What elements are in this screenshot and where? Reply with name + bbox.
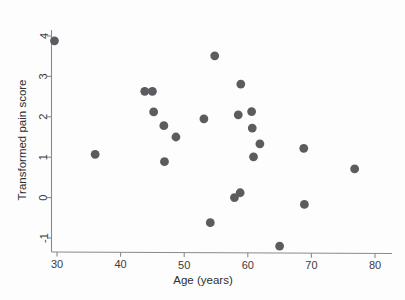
data-point — [248, 124, 257, 133]
data-point — [300, 200, 309, 209]
data-point — [91, 150, 100, 159]
data-points-layer — [50, 36, 359, 250]
data-point — [148, 87, 157, 96]
x-tick-label: 50 — [178, 259, 190, 271]
data-point — [350, 165, 359, 174]
data-point — [200, 114, 209, 123]
data-point — [149, 108, 158, 117]
data-point — [50, 36, 59, 45]
data-point — [247, 107, 256, 116]
y-axis-title: Transformed pain score — [16, 79, 28, 200]
y-tick-label: 4 — [38, 33, 50, 39]
y-tick-label: 3 — [38, 73, 50, 79]
data-point — [159, 121, 168, 130]
data-point — [210, 51, 219, 60]
x-axis: 304050607080 — [51, 252, 392, 271]
x-tick-label: 30 — [51, 258, 63, 270]
data-point — [160, 157, 169, 166]
y-tick-label: 1 — [38, 154, 50, 160]
data-point — [140, 87, 149, 96]
x-axis-title: Age (years) — [173, 274, 233, 286]
plot-canvas: -101234 304050607080 Age (years) Transfo… — [0, 0, 405, 300]
data-point — [236, 188, 245, 197]
data-point — [275, 242, 284, 251]
scatter-plot-figure: -101234 304050607080 Age (years) Transfo… — [0, 0, 405, 300]
y-axis: -101234 — [38, 30, 52, 252]
data-point — [234, 110, 243, 119]
data-point — [255, 139, 264, 148]
x-tick-label: 40 — [114, 258, 126, 270]
x-tick-label: 70 — [305, 259, 317, 271]
data-point — [236, 80, 245, 89]
x-tick-label: 80 — [369, 259, 381, 271]
y-tick-label: -1 — [38, 233, 50, 243]
data-point — [299, 144, 308, 153]
y-tick-label: 2 — [38, 114, 50, 120]
data-point — [172, 133, 181, 142]
x-tick-label: 60 — [242, 259, 254, 271]
data-point — [206, 218, 215, 227]
data-point — [249, 152, 258, 161]
y-tick-label: 0 — [38, 195, 50, 201]
